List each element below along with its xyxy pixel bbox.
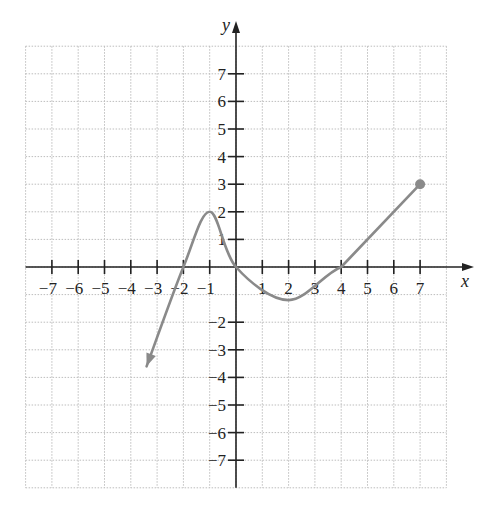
- y-tick-label: −2: [208, 313, 226, 332]
- x-axis-label: x: [460, 271, 469, 291]
- x-tick-label: 7: [416, 279, 425, 298]
- function-graph: −7−6−5−4−3−2−11234567 −7−6−5−4−3−2123456…: [0, 0, 498, 511]
- y-tick-label: 7: [218, 65, 227, 84]
- y-tick-label: −6: [208, 424, 226, 443]
- x-tick-label: −6: [65, 279, 83, 298]
- y-tick-label: 4: [218, 148, 227, 167]
- x-tick-label: 5: [363, 279, 372, 298]
- y-tick-label: 6: [218, 92, 227, 111]
- y-tick-label: −3: [208, 341, 226, 360]
- x-tick-label: 6: [390, 279, 399, 298]
- y-tick-label: 5: [218, 120, 227, 139]
- curve-arrow-icon: [146, 352, 155, 366]
- y-tick-label: −7: [208, 451, 227, 470]
- x-tick-label: 4: [337, 279, 346, 298]
- x-tick-label: −3: [144, 279, 162, 298]
- x-tick-labels: −7−6−5−4−3−2−11234567: [39, 279, 425, 298]
- function-curve: [146, 179, 425, 366]
- x-tick-label: −1: [197, 279, 215, 298]
- y-tick-label: 3: [218, 175, 227, 194]
- axes: [26, 21, 474, 488]
- y-tick-label: 2: [218, 203, 227, 222]
- endpoint-closed-dot: [415, 179, 425, 189]
- y-tick-label: −4: [208, 368, 227, 387]
- x-tick-label: −5: [91, 279, 109, 298]
- x-tick-label: 2: [284, 279, 293, 298]
- x-tick-label: −4: [118, 279, 137, 298]
- x-axis-arrow-icon: [462, 263, 474, 271]
- y-axis-label: y: [220, 15, 230, 35]
- y-axis-arrow-icon: [232, 21, 240, 33]
- x-tick-label: −7: [39, 279, 58, 298]
- y-tick-label: −5: [208, 396, 226, 415]
